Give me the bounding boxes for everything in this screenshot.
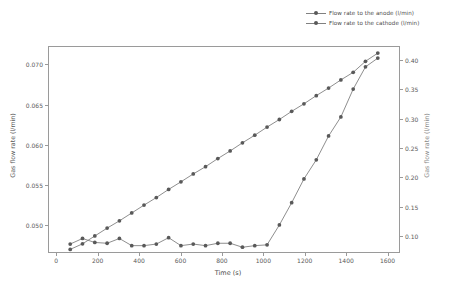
data-point-marker xyxy=(142,203,146,207)
x-tick xyxy=(139,253,140,256)
data-point-marker xyxy=(142,244,146,248)
x-tick xyxy=(98,253,99,256)
data-point-marker xyxy=(314,94,318,98)
y-tick-label-right: 0.40 xyxy=(405,56,418,63)
legend-entry-cathode: Flow rate to the cathode (l/min) xyxy=(306,19,419,27)
y-tick-right xyxy=(400,148,403,149)
x-tick-label: 800 xyxy=(216,257,227,264)
data-point-marker xyxy=(277,223,281,227)
data-point-marker xyxy=(130,211,134,215)
x-tick xyxy=(222,253,223,256)
data-point-marker xyxy=(290,201,294,205)
data-point-marker xyxy=(179,244,183,248)
y-tick-right xyxy=(400,119,403,120)
data-point-marker xyxy=(376,56,380,60)
x-axis-label: Time (s) xyxy=(0,269,456,277)
chart-figure: Flow rate to the anode (l/min) Flow rate… xyxy=(0,0,456,295)
data-point-marker xyxy=(204,165,208,169)
data-point-marker xyxy=(167,188,171,192)
data-point-marker xyxy=(204,244,208,248)
data-point-marker xyxy=(68,247,72,251)
x-tick xyxy=(56,253,57,256)
y-tick-label-right: 0.30 xyxy=(405,115,418,122)
y-tick-left xyxy=(45,105,48,106)
y-tick-label-left: 0.070 xyxy=(26,61,43,68)
y-tick-right xyxy=(400,177,403,178)
data-point-marker xyxy=(167,236,171,240)
series-cathode xyxy=(68,51,379,251)
data-point-marker xyxy=(339,78,343,82)
data-point-marker xyxy=(228,149,232,153)
data-point-marker xyxy=(327,134,331,138)
y-tick-label-left: 0.065 xyxy=(26,101,43,108)
x-tick-label: 0 xyxy=(54,257,58,264)
data-point-marker xyxy=(314,158,318,162)
data-point-marker xyxy=(154,196,158,200)
x-tick xyxy=(388,253,389,256)
x-tick xyxy=(346,253,347,256)
y-tick-right xyxy=(400,207,403,208)
data-point-marker xyxy=(93,241,97,245)
data-point-marker xyxy=(253,133,257,137)
data-point-marker xyxy=(179,180,183,184)
x-tick-label: 1600 xyxy=(380,257,395,264)
data-point-marker xyxy=(118,219,122,223)
x-tick-label: 1400 xyxy=(339,257,354,264)
data-point-marker xyxy=(351,70,355,74)
plot-area xyxy=(49,47,399,252)
y-axis-label-left: Gas flow rate (l/min) xyxy=(9,86,16,206)
data-point-marker xyxy=(118,237,122,241)
data-point-marker xyxy=(81,242,85,246)
y-tick-left xyxy=(45,185,48,186)
legend-label-anode: Flow rate to the anode (l/min) xyxy=(329,10,414,16)
y-tick-label-right: 0.35 xyxy=(405,86,418,93)
chart-legend: Flow rate to the anode (l/min) Flow rate… xyxy=(306,9,419,27)
data-point-marker xyxy=(265,243,269,247)
x-tick-label: 400 xyxy=(133,257,144,264)
y-tick-left xyxy=(45,64,48,65)
legend-line-marker-icon xyxy=(306,19,326,27)
legend-line-marker-icon xyxy=(306,9,326,17)
data-point-marker xyxy=(327,86,331,90)
legend-entry-anode: Flow rate to the anode (l/min) xyxy=(306,9,419,17)
data-point-marker xyxy=(228,241,232,245)
y-tick-right xyxy=(400,60,403,61)
legend-label-cathode: Flow rate to the cathode (l/min) xyxy=(329,20,419,26)
x-tick xyxy=(263,253,264,256)
x-tick xyxy=(181,253,182,256)
y-tick-label-left: 0.055 xyxy=(26,181,43,188)
x-tick-label: 1000 xyxy=(256,257,271,264)
data-point-marker xyxy=(81,237,85,241)
data-point-marker xyxy=(216,157,220,161)
y-tick-left xyxy=(45,225,48,226)
y-tick-left xyxy=(45,145,48,146)
y-tick-right xyxy=(400,89,403,90)
data-point-marker xyxy=(277,118,281,122)
y-tick-label-right: 0.20 xyxy=(405,174,418,181)
data-point-marker xyxy=(241,245,245,249)
data-point-marker xyxy=(302,177,306,181)
data-point-marker xyxy=(364,65,368,69)
data-point-marker xyxy=(351,87,355,91)
data-point-marker xyxy=(105,226,109,230)
data-point-marker xyxy=(191,242,195,246)
data-point-marker xyxy=(376,51,380,55)
y-tick-label-left: 0.060 xyxy=(26,141,43,148)
data-point-marker xyxy=(216,241,220,245)
data-point-marker xyxy=(130,244,134,248)
data-point-marker xyxy=(241,141,245,145)
x-tick xyxy=(305,253,306,256)
data-point-marker xyxy=(253,244,257,248)
x-tick-label: 1200 xyxy=(297,257,312,264)
data-point-marker xyxy=(68,242,72,246)
data-point-marker xyxy=(290,109,294,113)
y-tick-label-right: 0.10 xyxy=(405,233,418,240)
series-line xyxy=(70,53,378,249)
y-tick-label-right: 0.25 xyxy=(405,145,418,152)
x-tick-label: 200 xyxy=(92,257,103,264)
data-point-marker xyxy=(191,172,195,176)
plot-frame xyxy=(48,46,400,253)
y-tick-label-right: 0.15 xyxy=(405,203,418,210)
data-point-marker xyxy=(93,234,97,238)
y-axis-label-right: Gas flow rate (l/min) xyxy=(423,86,430,206)
